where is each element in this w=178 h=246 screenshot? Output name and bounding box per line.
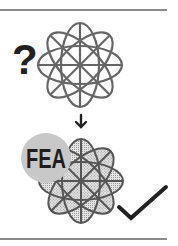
checkmark-icon (119, 187, 166, 218)
question-mark-icon: ? (12, 36, 38, 83)
bottom-divider (0, 238, 167, 240)
down-arrow-icon (76, 115, 86, 127)
fea-label: FEA (26, 144, 66, 174)
fea-diagram: ? FEA (0, 0, 178, 246)
unmeshed-shape-icon (37, 22, 123, 108)
